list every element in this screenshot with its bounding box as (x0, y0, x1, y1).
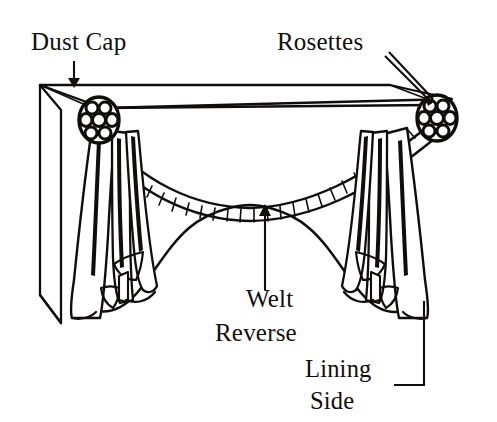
label-welt: Welt (246, 285, 293, 312)
label-reverse: Reverse (215, 319, 297, 346)
right-jabot-notch (371, 272, 380, 302)
left-rosette (79, 97, 119, 143)
label-side: Side (310, 387, 354, 414)
left-jabot-notch (119, 272, 128, 302)
label-dust-cap: Dust Cap (31, 28, 126, 55)
drapery-diagram: Dust Cap Rosettes Welt Reverse Lining Si… (0, 0, 497, 422)
drapery-illustration: Dust Cap Rosettes Welt Reverse Lining Si… (0, 0, 497, 422)
label-lining: Lining (305, 355, 372, 382)
dust-cap-left-panel (40, 85, 61, 323)
label-rosettes: Rosettes (277, 28, 363, 55)
right-rosette (417, 95, 457, 141)
